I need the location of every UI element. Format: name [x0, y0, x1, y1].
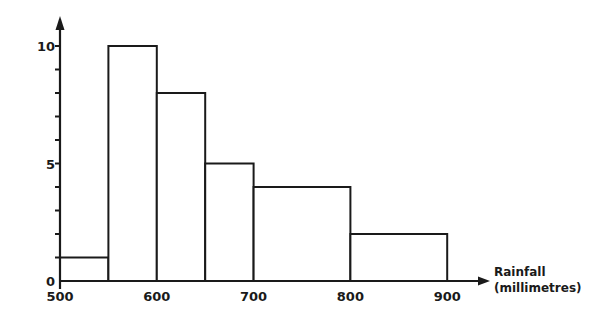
histogram-bar	[108, 46, 156, 281]
x-axis-label-line2: (millimetres)	[494, 281, 582, 295]
histogram-bar	[205, 164, 253, 282]
y-axis-ticks: 0510	[37, 39, 60, 289]
x-tick-label: 600	[143, 289, 170, 304]
histogram-bar	[350, 234, 447, 281]
histogram-chart: 0510 500600700800900 Rainfall (millimetr…	[0, 0, 612, 320]
x-tick-label: 500	[46, 289, 73, 304]
y-tick-label: 5	[46, 157, 55, 172]
x-tick-label: 800	[337, 289, 364, 304]
histogram-bar	[157, 93, 205, 281]
x-tick-label: 900	[434, 289, 461, 304]
histogram-bar	[254, 187, 351, 281]
x-axis-label-line1: Rainfall	[494, 265, 546, 279]
y-tick-label: 10	[37, 39, 55, 54]
y-tick-label: 0	[46, 274, 55, 289]
x-axis-ticks: 500600700800900	[46, 281, 460, 304]
y-axis-arrow-icon	[56, 16, 65, 30]
histogram-bar	[60, 258, 108, 282]
x-axis-arrow-icon	[478, 277, 490, 286]
histogram-bars	[60, 46, 447, 281]
x-tick-label: 700	[240, 289, 267, 304]
